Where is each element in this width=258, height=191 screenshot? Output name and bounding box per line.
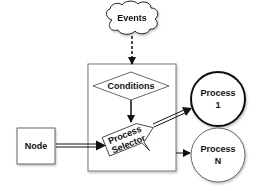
process-1-circle[interactable]: Process 1	[191, 72, 245, 126]
events-label: Events	[117, 13, 147, 23]
events-cloud[interactable]: Events	[106, 1, 157, 34]
conditions-label: Conditions	[108, 81, 155, 91]
process1-label-line1: Process	[200, 88, 235, 98]
edge-node-to-selector	[56, 141, 106, 151]
process-n-circle[interactable]: Process N	[191, 128, 245, 182]
node-label: Node	[25, 141, 48, 151]
process1-label-line2: 1	[215, 100, 220, 110]
processN-label-line1: Process	[200, 144, 235, 154]
node-box[interactable]: Node	[17, 128, 55, 164]
processN-label-line2: N	[215, 156, 222, 166]
diagram-canvas: Events Conditions Process Selector Node …	[0, 0, 258, 191]
